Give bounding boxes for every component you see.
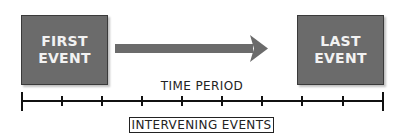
intervening-events-label: INTERVENING EVENTS bbox=[129, 117, 274, 133]
timeline bbox=[22, 91, 383, 111]
time-period-label: TIME PERIOD bbox=[150, 79, 254, 93]
right-arrow-icon bbox=[115, 35, 268, 62]
